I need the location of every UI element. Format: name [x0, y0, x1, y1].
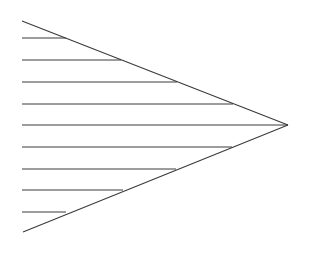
wedge-diagram-svg: [0, 0, 312, 258]
figure-canvas: [0, 0, 312, 258]
canvas-background: [0, 0, 312, 258]
